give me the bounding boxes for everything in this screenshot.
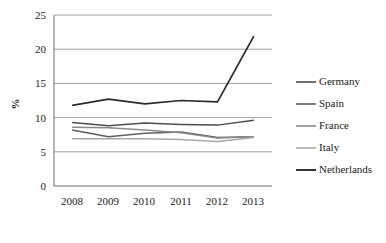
legend-item-italy[interactable]: Italy bbox=[296, 141, 340, 153]
series-line-netherlands bbox=[72, 36, 254, 105]
legend-item-label: Italy bbox=[319, 141, 340, 153]
legend-item-label: Germany bbox=[319, 75, 360, 87]
x-tick-label: 2008 bbox=[61, 195, 84, 207]
x-tick-label: 2012 bbox=[206, 195, 228, 207]
legend-item-france[interactable]: France bbox=[296, 119, 349, 131]
y-tick-label: 25 bbox=[35, 9, 47, 21]
x-axis-ticks: 2008 2009 2010 2011 2012 2013 bbox=[61, 195, 265, 207]
x-tick-label: 2013 bbox=[242, 195, 265, 207]
chart-legend: GermanySpainFranceItalyNetherlands bbox=[296, 75, 372, 175]
legend-item-label: Spain bbox=[319, 97, 345, 109]
y-axis-ticks: 25 20 15 10 5 0 bbox=[35, 9, 47, 192]
legend-item-germany[interactable]: Germany bbox=[296, 75, 360, 87]
series-layer bbox=[72, 36, 254, 141]
legend-item-spain[interactable]: Spain bbox=[296, 97, 345, 109]
y-axis-title: % bbox=[9, 99, 21, 110]
x-tick-label: 2010 bbox=[133, 195, 156, 207]
y-tick-label: 20 bbox=[35, 43, 47, 55]
y-tick-label: 10 bbox=[35, 112, 47, 124]
y-tick-label: 5 bbox=[41, 146, 47, 158]
line-chart: 25 20 15 10 5 0 % 2008 2009 2010 2011 20… bbox=[0, 0, 386, 243]
y-tick-label: 15 bbox=[35, 77, 47, 89]
y-tick-label: 0 bbox=[41, 180, 47, 192]
legend-item-netherlands[interactable]: Netherlands bbox=[296, 163, 372, 175]
chart-canvas: 25 20 15 10 5 0 % 2008 2009 2010 2011 20… bbox=[0, 0, 386, 243]
legend-item-label: Netherlands bbox=[319, 163, 372, 175]
series-line-germany bbox=[72, 120, 254, 125]
x-tick-label: 2009 bbox=[97, 195, 120, 207]
x-tick-label: 2011 bbox=[170, 195, 192, 207]
legend-item-label: France bbox=[319, 119, 349, 131]
